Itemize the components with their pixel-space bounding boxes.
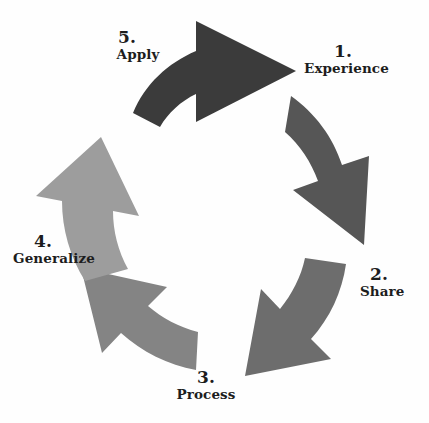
arrow-process xyxy=(245,258,346,376)
step-label-share: 2. Share xyxy=(360,265,429,299)
step-number-4: 4. xyxy=(2,232,106,251)
arrow-generalize xyxy=(81,268,198,370)
step-number-5: 5. xyxy=(92,28,184,47)
step-label-experience: 1. Experience xyxy=(304,42,426,76)
step-number-3: 3. xyxy=(156,368,256,387)
step-label-generalize: 4. Generalize xyxy=(2,232,106,266)
step-name-2: Share xyxy=(360,284,429,299)
arrow-share xyxy=(285,96,369,245)
step-name-5: Apply xyxy=(92,47,184,62)
step-name-4: Generalize xyxy=(2,251,106,266)
step-number-1: 1. xyxy=(304,42,426,61)
cycle-diagram: 1. Experience 2. Share 3. Process 4. Gen… xyxy=(0,0,429,423)
step-number-2: 2. xyxy=(360,265,429,284)
step-label-process: 3. Process xyxy=(156,368,256,402)
step-name-1: Experience xyxy=(304,61,426,76)
step-name-3: Process xyxy=(156,387,256,402)
step-label-apply: 5. Apply xyxy=(92,28,184,62)
